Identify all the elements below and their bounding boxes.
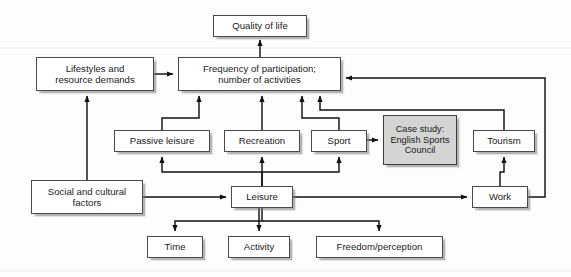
node-label: Tourism: [474, 135, 534, 146]
edge-leisure-to-time: [175, 208, 262, 231]
node-label: Leisure: [232, 191, 292, 202]
node-label: Case study:English SportsCouncil: [384, 124, 456, 157]
node-tourism[interactable]: Tourism: [473, 130, 535, 152]
node-label: Quality of life: [214, 20, 306, 31]
edge-leisure-to-freedom: [262, 221, 379, 231]
node-label: Social and culturalfactors: [32, 186, 142, 209]
node-passive-leisure[interactable]: Passive leisure: [114, 130, 210, 152]
node-label: Activity: [229, 241, 289, 252]
node-leisure[interactable]: Leisure: [231, 186, 293, 208]
edge-passive-to-frequency: [162, 96, 199, 130]
flow-diagram-canvas: Quality of life Lifestyles andresource d…: [0, 0, 571, 277]
node-frequency-of-participation[interactable]: Frequency of participation;number of act…: [178, 57, 341, 91]
edge-work-to-tourism: [500, 157, 504, 186]
node-label: Work: [473, 191, 527, 202]
node-sport[interactable]: Sport: [311, 130, 367, 152]
node-work[interactable]: Work: [472, 186, 528, 208]
node-case-study-english-sports-council[interactable]: Case study:English SportsCouncil: [383, 115, 457, 165]
node-lifestyles-and-resource-demands[interactable]: Lifestyles andresource demands: [36, 57, 154, 91]
node-label: Time: [148, 241, 202, 252]
node-label: Frequency of participation;number of act…: [179, 63, 340, 86]
node-label: Passive leisure: [115, 135, 209, 146]
node-activity[interactable]: Activity: [228, 236, 290, 258]
node-label: Sport: [312, 135, 366, 146]
node-recreation[interactable]: Recreation: [224, 130, 300, 152]
node-label: Lifestyles andresource demands: [37, 63, 153, 86]
node-social-and-cultural-factors[interactable]: Social and culturalfactors: [31, 180, 143, 214]
node-label: Recreation: [225, 135, 299, 146]
node-freedom-perception[interactable]: Freedom/perception: [316, 236, 443, 258]
node-quality-of-life[interactable]: Quality of life: [213, 15, 307, 37]
edge-leisure-to-sport: [262, 157, 339, 172]
node-label: Freedom/perception: [317, 241, 442, 252]
node-time[interactable]: Time: [147, 236, 203, 258]
edge-leisure-to-passive: [162, 157, 262, 186]
